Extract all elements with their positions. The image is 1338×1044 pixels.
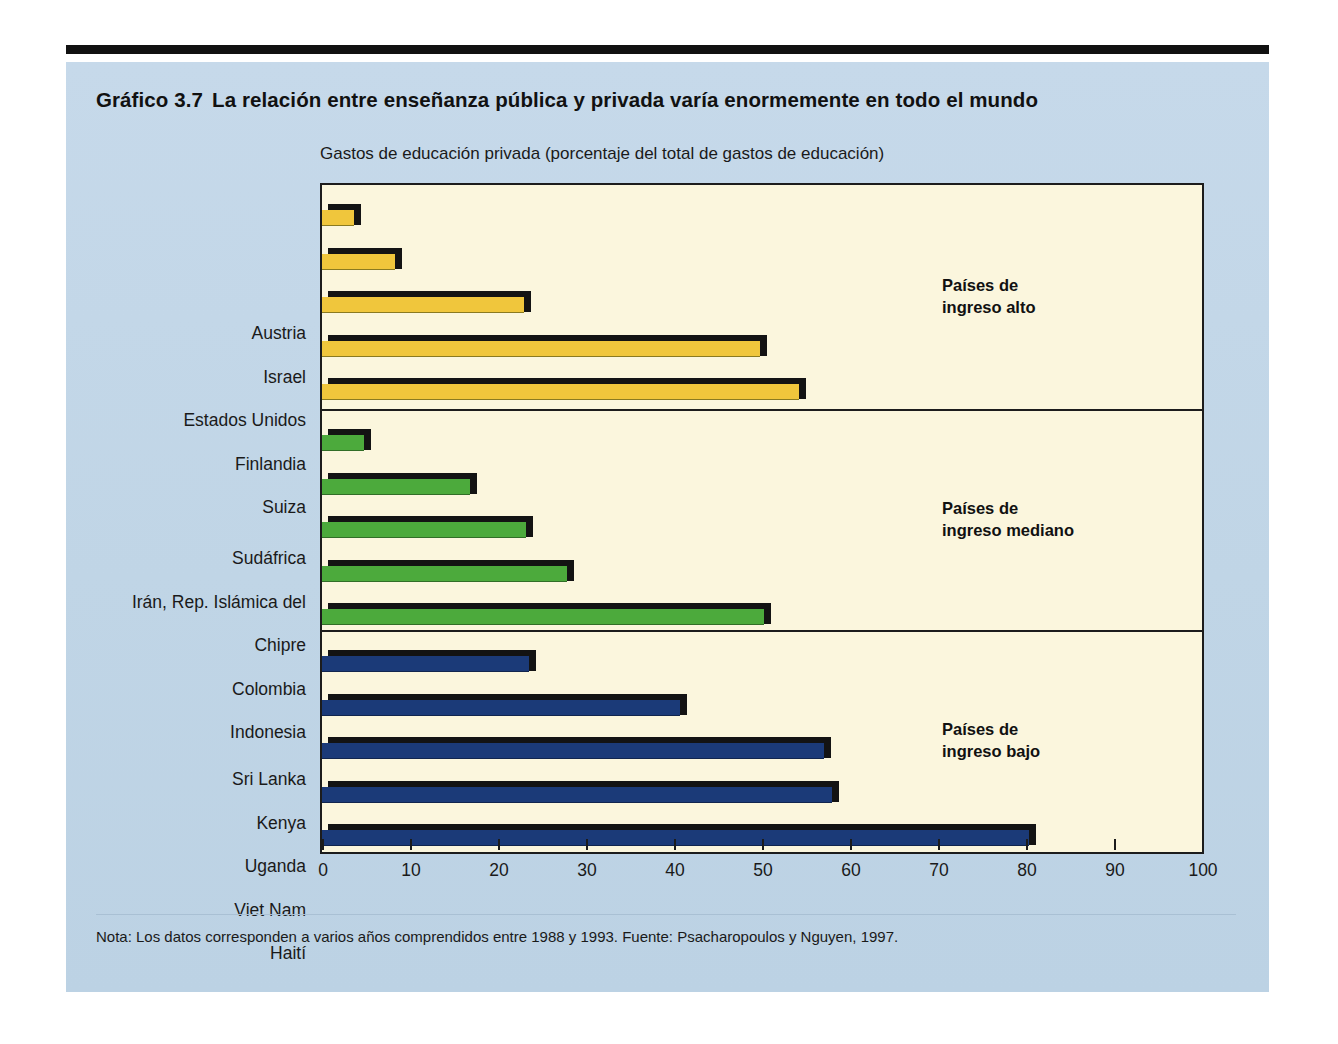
category-label: Sri Lanka	[0, 769, 306, 790]
bar-side-shadow	[680, 694, 687, 715]
band-divider	[322, 630, 1202, 632]
x-axis-tick-label: 100	[1188, 860, 1217, 881]
bar-fill	[322, 435, 364, 451]
x-axis-tick	[1026, 839, 1028, 850]
bar-fill	[322, 566, 567, 582]
bar-fill	[322, 341, 760, 357]
bar-side-shadow	[567, 560, 574, 581]
x-axis-tick-label: 60	[841, 860, 860, 881]
x-axis-labels: 0102030405060708090100	[320, 860, 1204, 886]
group-annotation-line2: ingreso bajo	[942, 740, 1040, 762]
bar	[322, 781, 832, 802]
category-label: Sudáfrica	[0, 548, 306, 569]
x-axis-tick	[674, 839, 676, 850]
bar	[322, 248, 395, 269]
x-axis-tick	[762, 839, 764, 850]
bar	[322, 560, 567, 581]
x-axis-tick	[410, 839, 412, 850]
category-label: Viet Nam	[0, 900, 306, 921]
footnote: Nota: Los datos corresponden a varios añ…	[96, 928, 1236, 945]
bar-side-shadow	[524, 291, 531, 312]
bar-fill	[322, 297, 524, 313]
bar-fill	[322, 656, 529, 672]
bar-side-shadow	[354, 204, 361, 225]
x-axis-tick-label: 40	[665, 860, 684, 881]
x-axis-tick	[498, 839, 500, 850]
figure-subtitle: Gastos de educación privada (porcentaje …	[320, 144, 884, 164]
bar	[322, 335, 760, 356]
category-label: Suiza	[0, 497, 306, 518]
band-divider	[322, 409, 1202, 411]
figure-panel: Gráfico 3.7La relación entre enseñanza p…	[66, 62, 1269, 992]
category-label: Irán, Rep. Islámica del	[0, 592, 306, 613]
x-axis-tick	[586, 839, 588, 850]
group-annotation-line2: ingreso alto	[942, 296, 1036, 318]
bar-side-shadow	[824, 737, 831, 758]
bar-fill	[322, 609, 764, 625]
group-annotation-line1: Países de	[942, 497, 1074, 519]
x-axis-tick-label: 10	[401, 860, 420, 881]
bar-side-shadow	[395, 248, 402, 269]
figure-number: Gráfico 3.7	[96, 88, 203, 111]
x-axis-tick-label: 30	[577, 860, 596, 881]
category-label: Israel	[0, 367, 306, 388]
category-label: Indonesia	[0, 722, 306, 743]
bar-fill	[322, 384, 799, 400]
category-label: Kenya	[0, 813, 306, 834]
bar-side-shadow	[529, 650, 536, 671]
bar	[322, 516, 526, 537]
x-axis-tick-label: 50	[753, 860, 772, 881]
group-annotation: Países deingreso bajo	[942, 718, 1040, 763]
bar	[322, 378, 799, 399]
bar-side-shadow	[764, 603, 771, 624]
top-rule	[66, 45, 1269, 54]
bar	[322, 204, 354, 225]
page-title: Gráfico 3.7La relación entre enseñanza p…	[96, 88, 1236, 112]
category-label: Austria	[0, 323, 306, 344]
figure-title-text: La relación entre enseñanza pública y pr…	[212, 88, 1038, 111]
figure-page: Gráfico 3.7La relación entre enseñanza p…	[0, 0, 1338, 1044]
bar-fill	[322, 522, 526, 538]
bar	[322, 429, 364, 450]
x-axis-tick	[1114, 839, 1116, 850]
bar-fill	[322, 743, 824, 759]
bar-side-shadow	[1029, 824, 1036, 845]
bar	[322, 694, 680, 715]
category-label: Uganda	[0, 856, 306, 877]
bar-side-shadow	[760, 335, 767, 356]
group-annotation-line1: Países de	[942, 718, 1040, 740]
bar-fill	[322, 254, 395, 270]
x-axis-tick	[938, 839, 940, 850]
group-annotation: Países deingreso alto	[942, 274, 1036, 319]
x-axis-tick	[322, 839, 324, 850]
chart-plot-area: Países deingreso altoPaíses deingreso me…	[320, 183, 1204, 854]
x-axis-tick-label: 90	[1105, 860, 1124, 881]
x-axis-tick-label: 70	[929, 860, 948, 881]
group-annotation-line2: ingreso mediano	[942, 519, 1074, 541]
bar-side-shadow	[799, 378, 806, 399]
bar-side-shadow	[526, 516, 533, 537]
x-axis-tick-label: 0	[318, 860, 328, 881]
bar-fill	[322, 479, 470, 495]
bar-side-shadow	[832, 781, 839, 802]
bar	[322, 650, 529, 671]
bar-side-shadow	[470, 473, 477, 494]
category-label: Chipre	[0, 635, 306, 656]
category-label: Haití	[0, 943, 306, 964]
bar	[322, 291, 524, 312]
footnote-divider	[96, 914, 1236, 915]
category-label: Finlandia	[0, 454, 306, 475]
x-axis-tick-label: 20	[489, 860, 508, 881]
bar-fill	[322, 787, 832, 803]
category-labels: AustriaIsraelEstados UnidosFinlandiaSuiz…	[0, 306, 306, 973]
bar-fill	[322, 700, 680, 716]
category-label: Colombia	[0, 679, 306, 700]
group-annotation: Países deingreso mediano	[942, 497, 1074, 542]
x-axis-tick	[1202, 839, 1204, 850]
bar-fill	[322, 210, 354, 226]
bar	[322, 603, 764, 624]
bar-side-shadow	[364, 429, 371, 450]
x-axis-tick-label: 80	[1017, 860, 1036, 881]
category-label: Estados Unidos	[0, 410, 306, 431]
x-axis-tick	[850, 839, 852, 850]
